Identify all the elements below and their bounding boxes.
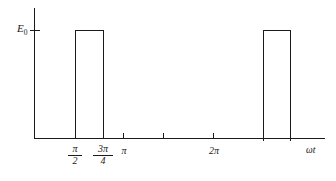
- y-axis-amplitude-label-base: E: [17, 22, 24, 34]
- pulse-1: [76, 31, 104, 140]
- x-tick-label-pi-over-2-denominator: 2: [68, 156, 82, 166]
- x-tick-label-pi-over-2-numerator: π: [68, 144, 82, 154]
- x-tick-label-pi: π: [121, 145, 126, 156]
- x-tick-label-3pi-over-4: 3π 4: [93, 144, 113, 166]
- x-tick-label-3pi-over-4-numerator: 3π: [93, 144, 113, 154]
- y-axis-amplitude-label: E0: [17, 23, 27, 36]
- x-tick-label-2pi: 2π: [209, 145, 219, 156]
- x-tick-label-3pi-over-4-denominator: 4: [93, 156, 113, 166]
- plot-canvas: [0, 0, 336, 181]
- y-axis-amplitude-label-subscript: 0: [24, 28, 28, 37]
- waveform-figure: E0 π 2 3π 4 π 2π ωt: [0, 0, 336, 181]
- x-tick-label-pi-over-2: π 2: [68, 144, 82, 166]
- pulse-2: [264, 31, 291, 142]
- x-axis-name-label: ωt: [306, 146, 315, 156]
